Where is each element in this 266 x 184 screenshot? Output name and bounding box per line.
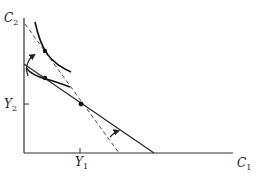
indifference-curve-high (35, 22, 71, 72)
consumption-diagram: C2 Y2 Y1 C1 (0, 0, 266, 184)
x-axis-label: C1 (237, 156, 251, 172)
y2-tick-label: Y2 (4, 97, 17, 113)
endowment-point (79, 102, 84, 107)
rotated-budget-line (25, 24, 119, 153)
optimum-point-high (43, 49, 47, 53)
optimum-point-low (43, 76, 47, 80)
y-axis-label: C2 (4, 11, 18, 27)
rotation-arrow (110, 131, 118, 137)
y1-tick-label: Y1 (75, 155, 88, 171)
